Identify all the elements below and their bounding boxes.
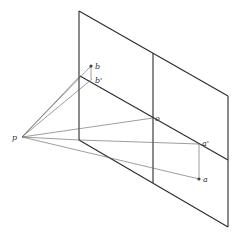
label-a-prime: a' [202,139,209,148]
label-b: b [95,62,100,71]
labels: p b b' o a' a [12,62,209,184]
label-b-prime: b' [95,76,102,85]
picture-plane [79,11,228,227]
projection-rays [22,66,199,179]
label-a: a [203,175,208,184]
point-a [197,177,200,180]
line-to-a-prime [79,140,199,144]
points [89,64,200,180]
point-b [89,64,92,67]
ray-p-plane-corner [22,76,80,137]
perspective-diagram: p b b' o a' a [0,0,241,237]
ray-p-plane-bottom [22,137,79,140]
label-o: o [155,114,160,123]
label-p: p [12,133,17,142]
